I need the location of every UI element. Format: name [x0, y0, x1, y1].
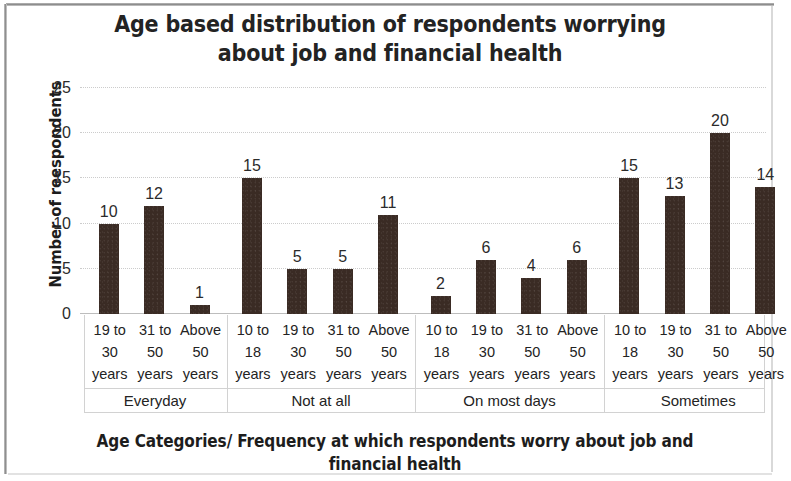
- bar: [521, 278, 541, 314]
- bar-value-label: 4: [511, 257, 551, 275]
- bar: [431, 296, 451, 314]
- category-group-divider: [85, 388, 764, 389]
- bar-value-label: 5: [323, 248, 363, 266]
- category-label: Above 50 years: [740, 319, 791, 385]
- bar-value-label: 13: [655, 175, 695, 193]
- bar-value-label: 11: [368, 194, 408, 212]
- bar: [190, 305, 210, 314]
- bar: [99, 224, 119, 314]
- bar: [333, 269, 353, 314]
- group-separator: [604, 315, 605, 413]
- bar-value-label: 20: [700, 112, 740, 130]
- category-label: 31 to 50 years: [129, 319, 181, 385]
- group-label: Everyday: [75, 391, 235, 411]
- category-label: 31 to 50 years: [506, 319, 558, 385]
- category-label: 10 to 18 years: [227, 319, 279, 385]
- gridline-5: 5: [80, 268, 766, 269]
- y-axis-tick-label: 15: [53, 169, 71, 187]
- y-axis-tick-label: 20: [53, 124, 71, 142]
- category-label: 10 to 18 years: [416, 319, 468, 385]
- bar: [287, 269, 307, 314]
- gridline-0: 0: [80, 313, 766, 314]
- y-axis-tick-label: 10: [53, 215, 71, 233]
- category-label: 31 to 50 years: [695, 319, 747, 385]
- bar-value-label: 15: [609, 157, 649, 175]
- category-label: 19 to 30 years: [461, 319, 513, 385]
- bar-value-label: 15: [232, 157, 272, 175]
- gridline-20: 20: [80, 132, 766, 133]
- x-axis-title: Age Categories/ Frequency at which respo…: [70, 430, 720, 476]
- group-label: Not at all: [241, 391, 401, 411]
- group-separator: [415, 315, 416, 413]
- group-label: On most days: [430, 391, 590, 411]
- page-border-top: [6, 3, 774, 6]
- bar: [619, 178, 639, 314]
- bar: [755, 187, 775, 314]
- page-border-left: [4, 4, 7, 474]
- group-label: Sometimes: [618, 391, 778, 411]
- category-label: Above 50 years: [175, 319, 227, 385]
- category-label: 19 to 30 years: [84, 319, 136, 385]
- category-label: 19 to 30 years: [650, 319, 702, 385]
- bar: [476, 260, 496, 314]
- y-axis-tick-label: 5: [62, 260, 71, 278]
- category-label: Above 50 years: [363, 319, 415, 385]
- bar-value-label: 1: [180, 284, 220, 302]
- category-label: Above 50 years: [552, 319, 604, 385]
- bar-value-label: 2: [421, 275, 461, 293]
- y-axis-tick-label: 25: [53, 79, 71, 97]
- gridline-25: 25: [80, 87, 766, 88]
- y-axis-tick-label: 0: [62, 305, 71, 323]
- bar: [567, 260, 587, 314]
- bar-value-label: 6: [466, 239, 506, 257]
- chart-title: Age based distribution of respondents wo…: [60, 10, 720, 68]
- bar: [710, 133, 730, 314]
- bar-value-label: 14: [745, 166, 785, 184]
- plot-area: 051015202510121155511264615132014: [80, 88, 766, 314]
- category-label-table: 19 to 30 years31 to 50 yearsAbove 50 yea…: [84, 315, 765, 413]
- bar-value-label: 12: [134, 185, 174, 203]
- bar-value-label: 5: [277, 248, 317, 266]
- bar-value-label: 10: [89, 203, 129, 221]
- category-label: 31 to 50 years: [318, 319, 370, 385]
- bar: [144, 206, 164, 314]
- bar-value-label: 6: [557, 239, 597, 257]
- gridline-10: 10: [80, 223, 766, 224]
- bar: [665, 196, 685, 314]
- category-label: 10 to 18 years: [604, 319, 656, 385]
- group-separator: [227, 315, 228, 413]
- bar: [378, 215, 398, 314]
- category-label: 19 to 30 years: [272, 319, 324, 385]
- bar: [242, 178, 262, 314]
